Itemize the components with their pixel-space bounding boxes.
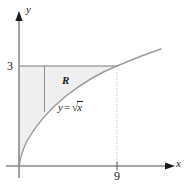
x-axis-label: x <box>176 158 181 169</box>
square-root-expression: √x <box>71 101 83 113</box>
y-axis-arrowhead <box>15 11 22 21</box>
math-figure: y x 3 9 R y=√x <box>0 0 187 189</box>
graph-canvas <box>0 0 187 189</box>
curve-equation-label: y=√x <box>58 101 83 113</box>
y-axis-label: y <box>26 4 31 15</box>
y-tick-label-3: 3 <box>7 60 13 72</box>
region-label-r: R <box>62 75 69 86</box>
x-tick-label-9: 9 <box>114 170 120 182</box>
equation-equals-sign: = <box>63 101 71 113</box>
x-axis-arrowhead <box>165 162 175 169</box>
radical-argument-x: x <box>77 101 83 113</box>
